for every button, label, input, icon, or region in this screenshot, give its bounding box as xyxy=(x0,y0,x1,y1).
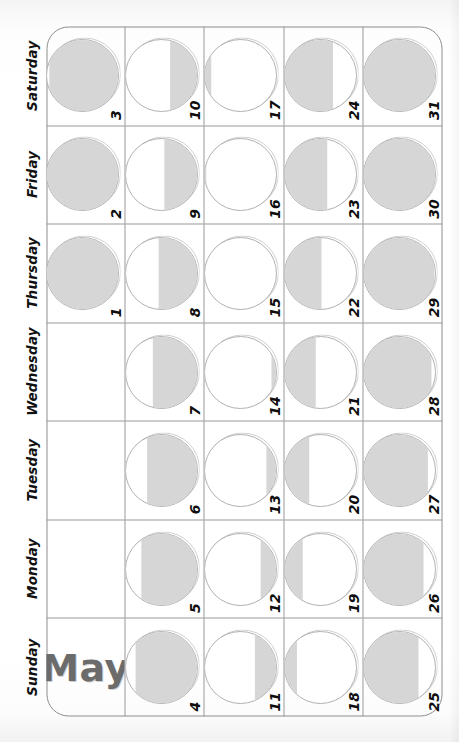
moon-phase-icon-full-moon xyxy=(46,235,120,311)
day-name-friday: Friday xyxy=(16,125,46,224)
day-name-wednesday: Wednesday xyxy=(16,322,46,421)
day-number: 13 xyxy=(267,494,281,513)
day-cell-29[interactable]: 29 xyxy=(363,223,442,322)
moon-phase-icon-waning-gibbous xyxy=(125,334,199,410)
day-cell-23[interactable]: 23 xyxy=(284,125,363,224)
day-cell-6[interactable]: 6 xyxy=(125,420,204,519)
day-number: 11 xyxy=(267,692,281,711)
month-title-cell: May xyxy=(46,617,125,716)
calendar-grid: May1234567891011121314151617181920212223… xyxy=(46,26,442,716)
day-cell-21[interactable]: 21 xyxy=(284,322,363,421)
day-number: 22 xyxy=(346,297,360,316)
day-number: 15 xyxy=(267,297,281,316)
day-cell-28[interactable]: 28 xyxy=(363,322,442,421)
day-cell-2[interactable]: 2 xyxy=(46,125,125,224)
moon-phase-icon-full-moon xyxy=(46,136,120,212)
day-number: 27 xyxy=(426,494,440,513)
day-number: 31 xyxy=(426,100,440,119)
day-number: 9 xyxy=(187,208,201,218)
empty-day-cell xyxy=(46,322,125,421)
day-cell-15[interactable]: 15 xyxy=(204,223,283,322)
day-name-thursday: Thursday xyxy=(16,223,46,322)
day-cell-5[interactable]: 5 xyxy=(125,519,204,618)
day-number: 8 xyxy=(187,307,201,317)
day-cell-25[interactable]: 25 xyxy=(363,617,442,716)
moon-phase-icon-waning-gibbous xyxy=(125,629,199,705)
day-cell-27[interactable]: 27 xyxy=(363,420,442,519)
month-title: May xyxy=(46,645,125,689)
day-cell-1[interactable]: 1 xyxy=(46,223,125,322)
day-number: 24 xyxy=(346,100,360,119)
day-cell-7[interactable]: 7 xyxy=(125,322,204,421)
moon-phase-icon-last-quarter xyxy=(125,235,199,311)
moon-phase-icon-waning-gibbous xyxy=(46,37,120,113)
day-number: 29 xyxy=(426,297,440,316)
day-cell-3[interactable]: 3 xyxy=(46,26,125,125)
day-cell-13[interactable]: 13 xyxy=(204,420,283,519)
day-cell-31[interactable]: 31 xyxy=(363,26,442,125)
day-number: 25 xyxy=(426,692,440,711)
day-number: 10 xyxy=(187,100,201,119)
day-cell-20[interactable]: 20 xyxy=(284,420,363,519)
day-number: 7 xyxy=(187,406,201,416)
rotated-calendar-stage: SundayMondayTuesdayWednesdayThursdayFrid… xyxy=(0,0,459,742)
day-number: 30 xyxy=(426,199,440,218)
day-cell-12[interactable]: 12 xyxy=(204,519,283,618)
day-number: 20 xyxy=(346,494,360,513)
day-cell-11[interactable]: 11 xyxy=(204,617,283,716)
day-name-tuesday: Tuesday xyxy=(16,420,46,519)
moon-phase-icon-waning-gibbous xyxy=(125,432,199,508)
day-number: 16 xyxy=(267,199,281,218)
day-cell-14[interactable]: 14 xyxy=(204,322,283,421)
day-number: 14 xyxy=(267,396,281,415)
day-cell-17[interactable]: 17 xyxy=(204,26,283,125)
day-cell-16[interactable]: 16 xyxy=(204,125,283,224)
day-number: 18 xyxy=(346,692,360,711)
day-cell-8[interactable]: 8 xyxy=(125,223,204,322)
day-number: 1 xyxy=(108,307,122,317)
day-number: 2 xyxy=(108,208,122,218)
day-number: 17 xyxy=(267,100,281,119)
day-cell-30[interactable]: 30 xyxy=(363,125,442,224)
day-number: 19 xyxy=(346,593,360,612)
calendar-grid-wrapper: May1234567891011121314151617181920212223… xyxy=(46,26,442,716)
day-number: 23 xyxy=(346,199,360,218)
day-cell-10[interactable]: 10 xyxy=(125,26,204,125)
day-number: 6 xyxy=(187,504,201,514)
day-number: 26 xyxy=(426,593,440,612)
day-number: 4 xyxy=(187,701,201,711)
day-cell-26[interactable]: 26 xyxy=(363,519,442,618)
moon-phase-icon-waning-gibbous xyxy=(125,531,199,607)
day-number: 12 xyxy=(267,593,281,612)
day-name-saturday: Saturday xyxy=(16,26,46,125)
moon-phase-calendar: SundayMondayTuesdayWednesdayThursdayFrid… xyxy=(16,26,444,716)
day-number: 3 xyxy=(108,110,122,120)
empty-day-cell xyxy=(46,420,125,519)
day-cell-9[interactable]: 9 xyxy=(125,125,204,224)
day-cell-4[interactable]: 4 xyxy=(125,617,204,716)
day-number: 5 xyxy=(187,603,201,613)
day-number: 21 xyxy=(346,396,360,415)
day-cell-22[interactable]: 22 xyxy=(284,223,363,322)
day-cell-24[interactable]: 24 xyxy=(284,26,363,125)
day-cell-18[interactable]: 18 xyxy=(284,617,363,716)
day-number: 28 xyxy=(426,396,440,415)
day-name-monday: Monday xyxy=(16,519,46,618)
moon-phase-icon-last-quarter xyxy=(125,136,199,212)
day-cell-19[interactable]: 19 xyxy=(284,519,363,618)
empty-day-cell xyxy=(46,519,125,618)
day-name-sunday: Sunday xyxy=(16,617,46,716)
day-name-header-row: SundayMondayTuesdayWednesdayThursdayFrid… xyxy=(16,26,46,716)
